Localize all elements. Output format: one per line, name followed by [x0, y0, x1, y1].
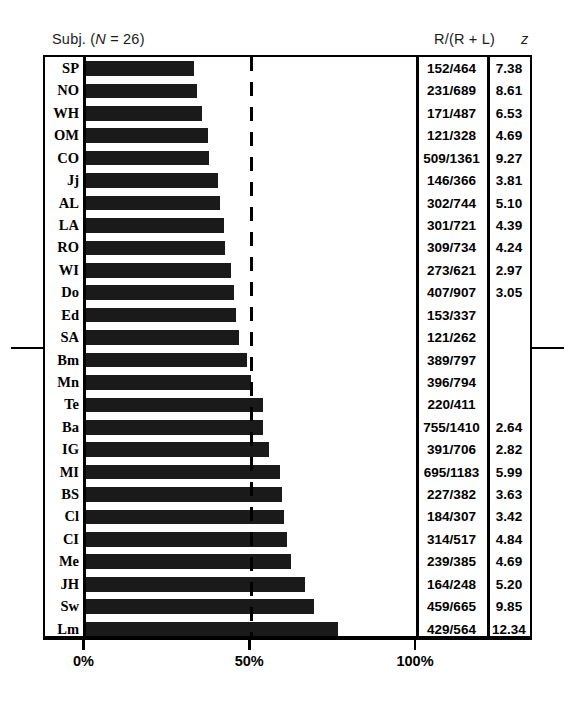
row-z-value: 3.63 — [487, 483, 531, 506]
row-subject-label: SA — [45, 326, 79, 349]
table-row: Bm389/797 — [45, 349, 530, 372]
table-row: Ed153/337 — [45, 304, 530, 327]
x-axis-tick — [82, 637, 85, 650]
row-ratio-value: 755/1410 — [416, 416, 487, 439]
row-z-value: 2.82 — [487, 438, 531, 461]
bar — [86, 330, 239, 345]
row-z-value: 3.81 — [487, 169, 531, 192]
header-z: z — [521, 31, 528, 47]
x-axis-tick-label: 50% — [235, 653, 264, 669]
row-subject-label: Sw — [45, 595, 79, 618]
bar — [86, 375, 251, 390]
bar — [86, 577, 305, 592]
row-ratio-value: 152/464 — [416, 57, 487, 80]
row-subject-label: WH — [45, 102, 79, 125]
row-z-value: 9.85 — [487, 595, 531, 618]
table-row: RO309/7344.24 — [45, 236, 530, 259]
chart-plot-area: SP152/4647.38NO231/6898.61WH171/4876.53O… — [43, 55, 532, 638]
row-z-value: 4.69 — [487, 124, 531, 147]
row-z-value: 8.61 — [487, 79, 531, 102]
row-subject-label: Do — [45, 281, 79, 304]
table-row: IG391/7062.82 — [45, 438, 530, 461]
row-z-value: 2.97 — [487, 259, 531, 282]
row-z-value: 5.10 — [487, 192, 531, 215]
row-z-value: 4.39 — [487, 214, 531, 237]
header-subject: Subj. (N = 26) — [52, 31, 145, 47]
table-row: Do407/9073.05 — [45, 281, 530, 304]
table-row: Te220/411 — [45, 393, 530, 416]
row-ratio-value: 389/797 — [416, 349, 487, 372]
row-ratio-value: 164/248 — [416, 573, 487, 596]
row-ratio-value: 227/382 — [416, 483, 487, 506]
bar — [86, 218, 224, 233]
row-subject-label: BS — [45, 483, 79, 506]
row-ratio-value: 309/734 — [416, 236, 487, 259]
row-ratio-value: 184/307 — [416, 505, 487, 528]
table-row: Mn396/794 — [45, 371, 530, 394]
bar — [86, 487, 283, 502]
x-axis-tick — [414, 637, 417, 650]
row-subject-label: Ba — [45, 416, 79, 439]
row-ratio-value: 459/665 — [416, 595, 487, 618]
row-subject-label: NO — [45, 79, 79, 102]
header-subject-count: = 26) — [106, 31, 145, 47]
row-z-value — [487, 393, 531, 416]
row-ratio-value: 407/907 — [416, 281, 487, 304]
row-subject-label: Cl — [45, 505, 79, 528]
row-subject-label: CI — [45, 528, 79, 551]
row-z-value: 3.42 — [487, 505, 531, 528]
header-subject-n: N — [95, 31, 106, 47]
bar — [86, 398, 263, 413]
bar — [86, 599, 315, 614]
row-ratio-value: 220/411 — [416, 393, 487, 416]
row-ratio-value: 391/706 — [416, 438, 487, 461]
row-subject-label: Te — [45, 393, 79, 416]
row-z-value: 5.99 — [487, 461, 531, 484]
bar — [86, 442, 270, 457]
row-subject-label: Mn — [45, 371, 79, 394]
row-ratio-value: 121/328 — [416, 124, 487, 147]
table-row: CO509/13619.27 — [45, 147, 530, 170]
table-row: SA121/262 — [45, 326, 530, 349]
bar — [86, 285, 235, 300]
table-row: Me239/3854.69 — [45, 550, 530, 573]
x-axis-line — [43, 637, 532, 640]
bar — [86, 128, 208, 143]
row-ratio-value: 239/385 — [416, 550, 487, 573]
chart-figure: Subj. (N = 26) R/(R + L) z SP152/4647.38… — [0, 0, 574, 702]
x-axis-tick — [248, 637, 251, 650]
bar — [86, 554, 292, 569]
row-subject-label: Jj — [45, 169, 79, 192]
row-z-value: 3.05 — [487, 281, 531, 304]
row-z-value — [487, 326, 531, 349]
bar — [86, 151, 210, 166]
table-row: WI273/6212.97 — [45, 259, 530, 282]
row-subject-label: OM — [45, 124, 79, 147]
row-subject-label: Ed — [45, 304, 79, 327]
row-subject-label: LA — [45, 214, 79, 237]
row-ratio-value: 121/262 — [416, 326, 487, 349]
bar — [86, 196, 221, 211]
row-ratio-value: 302/744 — [416, 192, 487, 215]
table-row: MI695/11835.99 — [45, 461, 530, 484]
row-subject-label: MI — [45, 461, 79, 484]
bar — [86, 510, 285, 525]
bar — [86, 353, 248, 368]
table-row: SP152/4647.38 — [45, 57, 530, 80]
table-row: Jj146/3663.81 — [45, 169, 530, 192]
row-subject-label: WI — [45, 259, 79, 282]
table-row: AL302/7445.10 — [45, 192, 530, 215]
row-z-value: 4.69 — [487, 550, 531, 573]
row-subject-label: IG — [45, 438, 79, 461]
header-ratio: R/(R + L) — [434, 31, 495, 47]
bar — [86, 532, 287, 547]
row-ratio-value: 273/621 — [416, 259, 487, 282]
row-z-value: 2.64 — [487, 416, 531, 439]
row-subject-label: SP — [45, 57, 79, 80]
bar — [86, 420, 263, 435]
row-z-value: 7.38 — [487, 57, 531, 80]
row-ratio-value: 146/366 — [416, 169, 487, 192]
bar — [86, 465, 281, 480]
bar — [86, 241, 226, 256]
bar — [86, 173, 218, 188]
